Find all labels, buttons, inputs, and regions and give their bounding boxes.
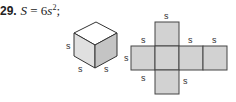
cube-diagram: s s s xyxy=(66,22,117,74)
net-label-left-side: s xyxy=(124,53,129,63)
cube-label-height: s xyxy=(66,41,71,51)
net-label-left-top: s xyxy=(141,35,146,45)
net-face-bottom xyxy=(155,70,179,94)
net-label-far-right-top: s xyxy=(212,35,217,45)
net-face-top xyxy=(155,22,179,46)
cube-net-diagram xyxy=(131,22,227,94)
net-label-left-bottom: s xyxy=(141,73,146,83)
cube-label-width: s xyxy=(104,64,109,74)
net-label-top: s xyxy=(164,11,169,21)
net-face-left xyxy=(131,46,155,70)
net-face-right xyxy=(179,46,203,70)
net-face-center xyxy=(155,46,179,70)
figure-canvas: s s s s s s s s s s xyxy=(0,0,236,102)
net-label-right-top: s xyxy=(188,35,193,45)
net-face-far-right xyxy=(203,46,227,70)
cube-label-depth: s xyxy=(78,64,83,74)
net-label-bottom-right: s xyxy=(183,76,188,86)
